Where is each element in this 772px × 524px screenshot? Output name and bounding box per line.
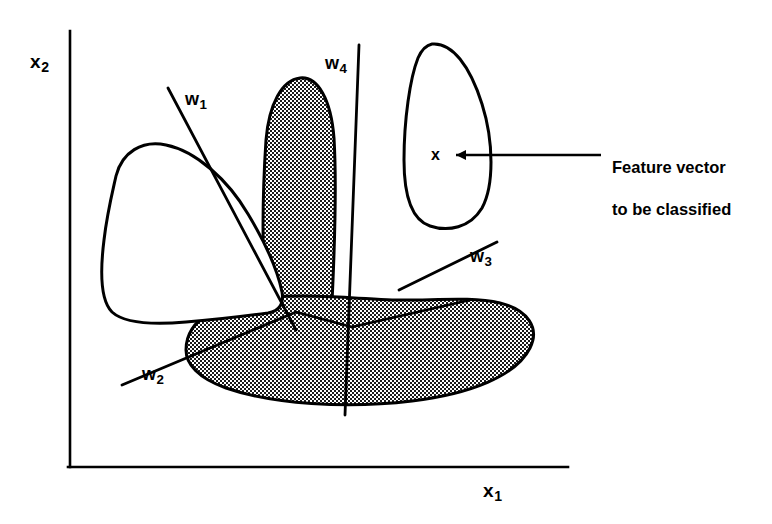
y-axis-label-text: x xyxy=(30,51,41,72)
region-label-w4-text: w xyxy=(325,53,339,73)
callout-text: Feature vector to be classified xyxy=(612,136,731,242)
feature-vector-marker: x xyxy=(431,147,440,163)
region-label-w4: w4 xyxy=(325,54,346,72)
region-label-w3: w3 xyxy=(470,247,491,265)
callout-line-2: to be classified xyxy=(612,199,731,220)
region-label-w3-subscript: 3 xyxy=(485,254,492,269)
unshaded-blob-right xyxy=(404,44,491,229)
unshaded-blob-left xyxy=(102,144,283,323)
region-label-w2: w2 xyxy=(142,365,163,383)
region-label-w1: w1 xyxy=(185,90,206,108)
callout-line-1: Feature vector xyxy=(612,157,731,178)
y-axis-label: x2 xyxy=(30,52,48,71)
x-axis-label: x1 xyxy=(483,481,501,500)
diagram-canvas xyxy=(0,0,772,524)
y-axis-label-subscript: 2 xyxy=(41,59,49,75)
feature-space-diagram: x2 x1 w1 w2 w3 w4 x Feature vector to be… xyxy=(0,0,772,524)
region-label-w4-subscript: 4 xyxy=(340,61,347,76)
x-axis-label-subscript: 1 xyxy=(494,488,502,504)
region-label-w3-text: w xyxy=(470,246,484,266)
x-axis-label-text: x xyxy=(483,480,494,501)
region-label-w1-subscript: 1 xyxy=(200,97,207,112)
region-label-w2-text: w xyxy=(142,364,156,384)
region-label-w2-subscript: 2 xyxy=(157,372,164,387)
region-label-w1-text: w xyxy=(185,89,199,109)
